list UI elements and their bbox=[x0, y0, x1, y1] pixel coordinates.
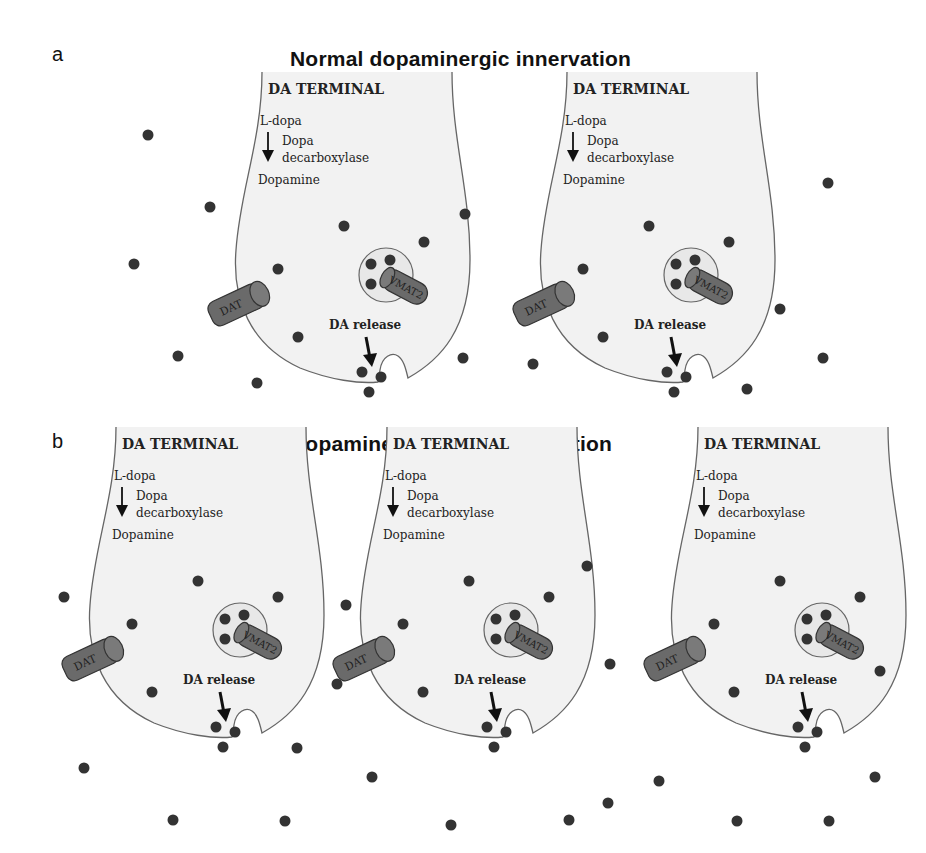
dopamine-molecule bbox=[252, 378, 263, 389]
dopamine-molecule bbox=[332, 679, 343, 690]
dopamine-molecule bbox=[173, 351, 184, 362]
da-terminal-a-1: DA TERMINALL-dopaDopadecarboxylaseDopami… bbox=[205, 72, 470, 398]
dopamine-molecule bbox=[605, 659, 616, 670]
dopamine-label: Dopamine bbox=[383, 528, 445, 542]
dopamine-molecule bbox=[823, 178, 834, 189]
l-dopa-label: L-dopa bbox=[385, 469, 427, 483]
enzyme-label: decarboxylase bbox=[136, 506, 223, 520]
da-terminal-b-1: DA TERMINALL-dopaDopadecarboxylaseDopami… bbox=[59, 427, 324, 753]
da-terminal-a-2: DA TERMINALL-dopaDopadecarboxylaseDopami… bbox=[510, 72, 775, 398]
l-dopa-label: L-dopa bbox=[696, 469, 738, 483]
dopamine-molecule bbox=[205, 202, 216, 213]
l-dopa-label: L-dopa bbox=[565, 114, 607, 128]
dopamine-molecule bbox=[528, 359, 539, 370]
enzyme-label: Dopa bbox=[407, 489, 439, 503]
da-release-label: DA release bbox=[634, 318, 707, 332]
terminal-header: DA TERMINAL bbox=[268, 81, 384, 97]
dopamine-molecule bbox=[775, 304, 786, 315]
dopamine-molecule bbox=[824, 816, 835, 827]
dopamine-molecule bbox=[742, 384, 753, 395]
dopamine-molecule bbox=[818, 353, 829, 364]
dopamine-molecule bbox=[292, 743, 303, 754]
dopamine-label: Dopamine bbox=[112, 528, 174, 542]
enzyme-label: decarboxylase bbox=[282, 151, 369, 165]
diagram-canvas: DA TERMINALL-dopaDopadecarboxylaseDopami… bbox=[0, 0, 926, 853]
dopamine-molecule bbox=[129, 259, 140, 270]
enzyme-label: Dopa bbox=[718, 489, 750, 503]
da-release-label: DA release bbox=[765, 673, 838, 687]
dopamine-molecule bbox=[367, 772, 378, 783]
da-release-label: DA release bbox=[183, 673, 256, 687]
terminal-header: DA TERMINAL bbox=[393, 436, 509, 452]
dopamine-molecule bbox=[280, 816, 291, 827]
dopamine-molecule bbox=[446, 820, 457, 831]
dopamine-label: Dopamine bbox=[563, 173, 625, 187]
dopamine-molecule bbox=[143, 130, 154, 141]
dopamine-molecule bbox=[582, 561, 593, 572]
enzyme-label: decarboxylase bbox=[718, 506, 805, 520]
dopamine-molecule bbox=[79, 763, 90, 774]
enzyme-label: decarboxylase bbox=[407, 506, 494, 520]
dopamine-molecule bbox=[341, 600, 352, 611]
terminal-header: DA TERMINAL bbox=[573, 81, 689, 97]
dopamine-molecule bbox=[460, 209, 471, 220]
dopamine-label: Dopamine bbox=[258, 173, 320, 187]
dopamine-molecule bbox=[168, 815, 179, 826]
enzyme-label: Dopa bbox=[282, 134, 314, 148]
dopamine-molecule bbox=[732, 816, 743, 827]
terminal-header: DA TERMINAL bbox=[122, 436, 238, 452]
da-terminal-b-2: DA TERMINALL-dopaDopadecarboxylaseDopami… bbox=[330, 427, 595, 753]
dopamine-molecule bbox=[870, 772, 881, 783]
da-terminal-b-3: DA TERMINALL-dopaDopadecarboxylaseDopami… bbox=[641, 427, 906, 753]
dopamine-molecule bbox=[875, 666, 886, 677]
dopamine-molecule bbox=[654, 776, 665, 787]
da-release-label: DA release bbox=[454, 673, 527, 687]
dopamine-molecule bbox=[603, 798, 614, 809]
dopamine-molecule bbox=[564, 815, 575, 826]
da-release-label: DA release bbox=[329, 318, 402, 332]
dopamine-molecule bbox=[59, 592, 70, 603]
l-dopa-label: L-dopa bbox=[260, 114, 302, 128]
dopamine-label: Dopamine bbox=[694, 528, 756, 542]
l-dopa-label: L-dopa bbox=[114, 469, 156, 483]
enzyme-label: Dopa bbox=[587, 134, 619, 148]
enzyme-label: Dopa bbox=[136, 489, 168, 503]
terminal-header: DA TERMINAL bbox=[704, 436, 820, 452]
dopamine-molecule bbox=[458, 353, 469, 364]
enzyme-label: decarboxylase bbox=[587, 151, 674, 165]
